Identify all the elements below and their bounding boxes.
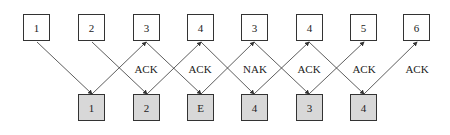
ack-label: ACK <box>405 63 428 75</box>
sender-frame: 1 <box>23 14 50 41</box>
sender-frame: 6 <box>403 14 430 41</box>
sender-frame: 3 <box>241 14 268 41</box>
go-back-n-diagram: 1 2 3 4 3 4 5 6 1 2 E 4 3 4 ACK ACK NAK … <box>0 0 450 135</box>
ack-label: ACK <box>352 63 375 75</box>
sender-frame: 4 <box>296 14 323 41</box>
nak-label: NAK <box>243 63 267 75</box>
receiver-frame: 4 <box>350 94 377 121</box>
data-arrow <box>37 42 92 94</box>
sender-frame: 5 <box>350 14 377 41</box>
sender-frame: 3 <box>133 14 160 41</box>
arrows-layer <box>0 0 450 135</box>
sender-frame: 2 <box>78 14 105 41</box>
receiver-frame: 1 <box>78 94 105 121</box>
receiver-frame: 3 <box>296 94 323 121</box>
ack-label: ACK <box>188 63 211 75</box>
receiver-frame: 2 <box>133 94 160 121</box>
receiver-frame-error: E <box>187 94 214 121</box>
ack-label: ACK <box>134 63 157 75</box>
sender-frame: 4 <box>187 14 214 41</box>
ack-label: ACK <box>297 63 320 75</box>
receiver-frame: 4 <box>241 94 268 121</box>
